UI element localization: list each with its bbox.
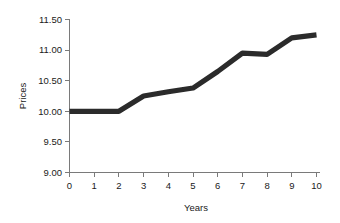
x-axis-title: Years (184, 202, 208, 213)
chart-canvas: 11.50 11.00 10.50 10.00 9.50 9.00 0 1 2 … (0, 0, 340, 223)
y-axis-title: Prices (17, 83, 28, 110)
x-tick-label: 10 (311, 180, 322, 191)
line-chart: 11.50 11.00 10.50 10.00 9.50 9.00 0 1 2 … (0, 0, 340, 223)
y-tick-label: 11.50 (39, 14, 62, 25)
x-tick-label: 3 (141, 180, 146, 191)
x-tick-label: 1 (92, 180, 97, 191)
y-tick-label: 9.00 (44, 167, 63, 178)
x-tick-label: 5 (190, 180, 195, 191)
x-tick-label: 0 (67, 180, 72, 191)
x-tick-label: 9 (289, 180, 294, 191)
y-tick-label: 10.00 (38, 106, 62, 117)
x-tick-label: 6 (215, 180, 220, 191)
x-tick-label: 2 (116, 180, 121, 191)
y-tick-label: 11.00 (39, 44, 62, 55)
x-tick-label: 8 (264, 180, 269, 191)
y-tick-label: 9.50 (44, 136, 63, 147)
x-tick-label: 7 (240, 180, 245, 191)
x-tick-label: 4 (166, 180, 171, 191)
y-tick-label: 10.50 (38, 75, 62, 86)
